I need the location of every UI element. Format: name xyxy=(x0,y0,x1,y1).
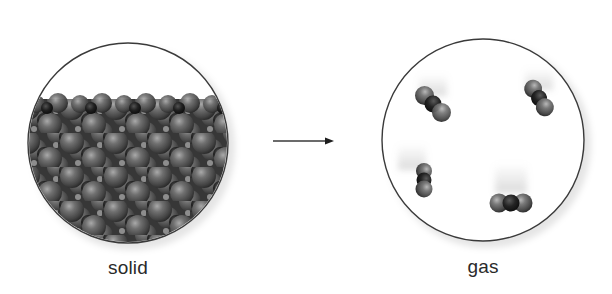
arrow-head-icon xyxy=(325,138,334,145)
solid-lattice xyxy=(20,93,240,259)
transition-arrow xyxy=(273,138,334,145)
solid-label: solid xyxy=(68,257,188,279)
gas-panel xyxy=(382,39,591,248)
solid-panel xyxy=(20,43,240,259)
gas-label: gas xyxy=(423,256,543,278)
phase-change-diagram xyxy=(0,0,612,294)
gas-molecule-4 xyxy=(490,163,533,213)
gas-circle-background xyxy=(382,39,584,241)
diagram-stage: solid gas xyxy=(0,0,612,294)
